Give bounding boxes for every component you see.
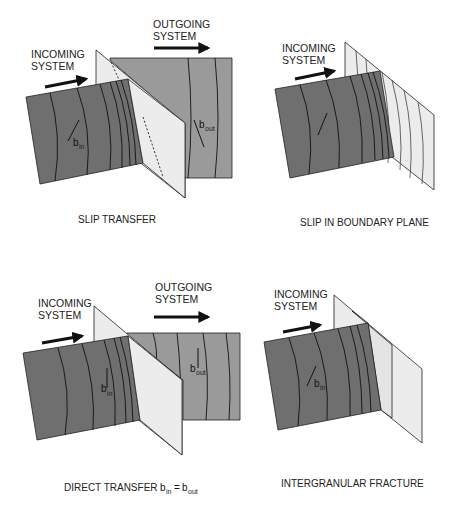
vector-in-sub: in <box>79 143 85 150</box>
caption-intergranular-fracture: INTERGRANULAR FRACTURE <box>281 478 424 489</box>
incoming-direction-arrow <box>295 71 334 79</box>
caption-direct-transfer: DIRECT TRANSFER <box>64 482 158 493</box>
equation-b-in-equals-b-out: b in = b out <box>160 482 198 495</box>
incoming-direction-arrow <box>42 336 82 343</box>
caption-slip-transfer: SLIP TRANSFER <box>78 214 156 225</box>
incoming-label-line2: SYSTEM <box>274 300 317 312</box>
incoming-crystal-block <box>264 323 381 430</box>
incoming-label-line1: INCOMING <box>31 48 85 60</box>
vector-out-sub: out <box>205 125 215 132</box>
incoming-crystal-block <box>275 71 394 178</box>
outgoing-label-line1: OUTGOING <box>153 18 210 30</box>
incoming-label-line1: INCOMING <box>282 42 336 54</box>
vector-out-sub: out <box>196 369 206 376</box>
incoming-label-line2: SYSTEM <box>38 309 81 321</box>
outgoing-label-line2: SYSTEM <box>153 30 196 42</box>
incoming-direction-arrow <box>45 79 86 87</box>
vector-in-sub: in <box>320 384 326 391</box>
caption-slip-in-boundary-plane: SLIP IN BOUNDARY PLANE <box>300 217 429 228</box>
svg-text:in: in <box>166 488 172 495</box>
incoming-crystal-block <box>23 336 140 440</box>
vector-in-sub: in <box>107 390 113 397</box>
panel-direct-transfer: b in b out INCOMING SYSTEM OUTGOING SYST… <box>23 281 240 495</box>
slip-mechanisms-diagram: b in b out INCOMING SYSTEM OUTGOING SYST… <box>0 0 450 511</box>
panel-slip-transfer: b in b out INCOMING SYSTEM OUTGOING SYST… <box>26 18 232 225</box>
panel-slip-in-boundary-plane: INCOMING SYSTEM SLIP IN BOUNDARY PLANE <box>275 42 434 228</box>
svg-text:out: out <box>188 488 198 495</box>
outgoing-label-line2: SYSTEM <box>155 293 198 305</box>
incoming-label-line2: SYSTEM <box>282 54 325 66</box>
svg-text:=: = <box>174 482 180 493</box>
panel-intergranular-fracture: b in INCOMING SYSTEM INTERGRANULAR FRACT… <box>264 288 424 489</box>
incoming-direction-arrow <box>283 325 320 332</box>
incoming-label-line2: SYSTEM <box>31 60 74 72</box>
incoming-label-line1: INCOMING <box>38 297 92 309</box>
outgoing-label-line1: OUTGOING <box>155 281 212 293</box>
incoming-label-line1: INCOMING <box>274 288 328 300</box>
